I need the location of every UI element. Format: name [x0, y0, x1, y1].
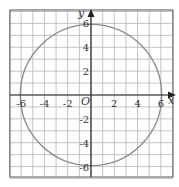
y-tick-label: -2 — [79, 114, 89, 125]
coordinate-plane: -6-4-2246642-2-4-6 x y O — [0, 0, 179, 187]
x-tick-label: 2 — [111, 98, 117, 109]
y-tick-label: 2 — [83, 66, 89, 77]
y-axis-label: y — [77, 7, 85, 20]
y-tick-label: 6 — [83, 18, 89, 29]
x-tick-label: -6 — [16, 98, 26, 109]
y-tick-label: -6 — [79, 162, 89, 173]
y-tick-label: -4 — [79, 138, 89, 149]
x-tick-label: -4 — [40, 98, 50, 109]
x-tick-label: 4 — [134, 98, 140, 109]
x-tick-label: -2 — [63, 98, 73, 109]
x-axis-label: x — [168, 94, 175, 107]
x-tick-label: 6 — [158, 98, 164, 109]
y-tick-label: 4 — [83, 42, 89, 53]
origin-label: O — [81, 95, 90, 108]
